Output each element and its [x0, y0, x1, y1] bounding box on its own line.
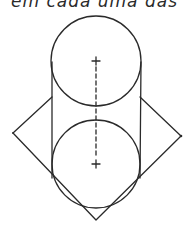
cylinder-diagram	[0, 0, 189, 236]
right-vertex-dot	[180, 135, 183, 138]
left-vertex-dot	[12, 132, 14, 134]
rhombus-left-edges	[13, 97, 181, 220]
cylinder-right-side	[140, 62, 141, 178]
bottom-center-cross-icon	[92, 160, 100, 168]
top-center-cross-icon	[92, 57, 100, 65]
